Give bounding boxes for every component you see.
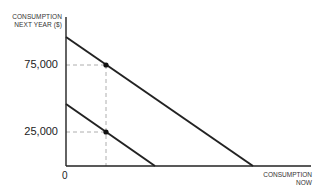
budget-line-low: [66, 104, 155, 166]
budget-constraint-chart: [0, 0, 325, 196]
y-axis-label-line2: NEXT YEAR ($): [0, 21, 62, 29]
point-low: [103, 129, 108, 134]
y-axis-label: CONSUMPTION NEXT YEAR ($): [0, 13, 62, 29]
y-tick-25000: 25,000: [0, 125, 58, 137]
y-axis-label-line1: CONSUMPTION: [0, 13, 62, 21]
x-axis-label: CONSUMPTION NOW: [255, 171, 312, 187]
y-tick-75000: 75,000: [0, 58, 58, 70]
x-axis-label-line1: CONSUMPTION: [255, 171, 312, 179]
x-axis-label-line2: NOW: [255, 179, 312, 187]
budget-line-high: [66, 37, 253, 166]
origin-label: 0: [62, 170, 68, 181]
point-high: [103, 62, 108, 67]
